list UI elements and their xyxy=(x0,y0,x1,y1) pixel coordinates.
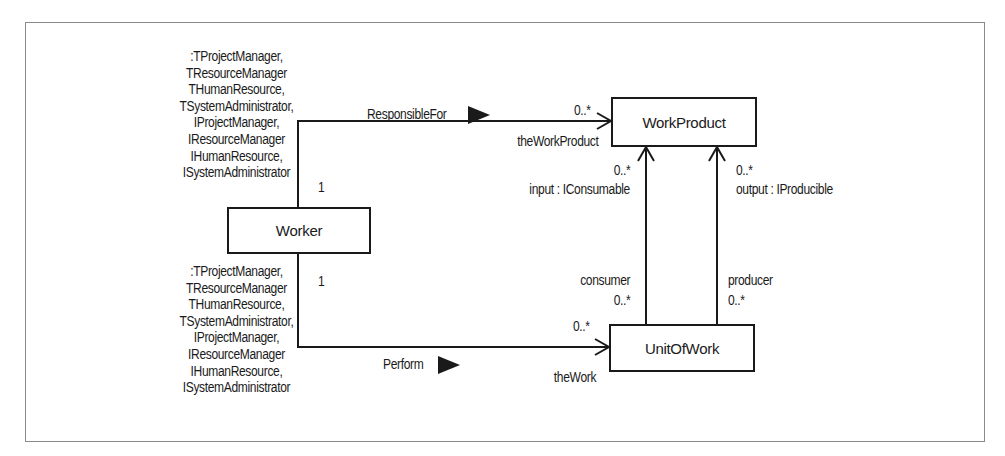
role-label: TSystemAdministrator, xyxy=(179,98,293,115)
perform-source-multiplicity: 1 xyxy=(318,273,324,290)
association-lines xyxy=(0,0,1005,456)
role-label: IResourceManager xyxy=(179,131,293,148)
role-label: :TProjectManager, xyxy=(179,263,293,280)
role-label: ISystemAdministrator xyxy=(179,164,293,181)
input-target-role: input : IConsumable xyxy=(529,181,630,198)
role-label: TResourceManager xyxy=(179,280,293,297)
input-source-multiplicity: 0..* xyxy=(613,292,630,309)
role-label: ISystemAdministrator xyxy=(179,379,293,396)
responsible-for-target-multiplicity: 0..* xyxy=(574,102,591,119)
class-unit-of-work: UnitOfWork xyxy=(609,324,755,372)
perform-target-multiplicity: 0..* xyxy=(573,318,590,335)
perform-name: Perform xyxy=(383,356,423,373)
class-work-product: WorkProduct xyxy=(611,97,757,147)
role-label: IHumanResource, xyxy=(179,148,293,165)
perform-source-roles: :TProjectManager, TResourceManager THuma… xyxy=(179,263,293,396)
output-target-multiplicity: 0..* xyxy=(736,162,753,179)
responsible-for-target-role: theWorkProduct xyxy=(518,133,599,150)
role-label: :TProjectManager, xyxy=(179,48,293,65)
role-label: IProjectManager, xyxy=(179,329,293,346)
responsible-for-source-roles: :TProjectManager, TResourceManager THuma… xyxy=(179,48,293,181)
input-source-role: consumer xyxy=(580,272,630,289)
output-target-role: output : IProducible xyxy=(736,181,833,198)
role-label: TSystemAdministrator, xyxy=(179,313,293,330)
role-label: IProjectManager, xyxy=(179,114,293,131)
class-unit-of-work-name: UnitOfWork xyxy=(645,340,719,357)
role-label: THumanResource, xyxy=(179,296,293,313)
input-target-multiplicity: 0..* xyxy=(613,162,630,179)
role-label: IHumanResource, xyxy=(179,363,293,380)
responsible-for-name: ResponsibleFor xyxy=(367,106,447,123)
class-worker-name: Worker xyxy=(276,222,322,239)
class-worker: Worker xyxy=(227,207,371,254)
role-label: IResourceManager xyxy=(179,346,293,363)
perform-target-role: theWork xyxy=(554,369,596,386)
role-label: TResourceManager xyxy=(179,65,293,82)
responsible-for-source-multiplicity: 1 xyxy=(318,179,324,196)
class-work-product-name: WorkProduct xyxy=(642,114,725,131)
role-label: THumanResource, xyxy=(179,81,293,98)
perform-line xyxy=(298,254,609,347)
perform-direction-icon xyxy=(438,356,460,374)
output-source-multiplicity: 0..* xyxy=(728,292,745,309)
output-source-role: producer xyxy=(728,272,773,289)
